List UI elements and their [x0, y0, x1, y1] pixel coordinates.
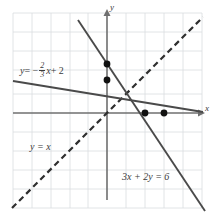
fraction-numerator: 2 — [39, 62, 45, 70]
point-x-intercept-2 — [142, 110, 149, 117]
point-y-intercept-2 — [104, 77, 111, 84]
fraction-denominator: 3 — [39, 70, 45, 79]
equation-label-y-equals-x: y = x — [30, 142, 51, 152]
axes — [13, 16, 198, 200]
line-3x-plus-2y-equals-6 — [78, 20, 205, 211]
eq1-equals: = − — [24, 65, 38, 76]
y-axis-label: y — [110, 3, 114, 12]
point-y-intercept-3 — [104, 61, 111, 68]
fraction-two-thirds: 23 — [39, 62, 45, 79]
graph-figure: y= −23x+ 2 y = x 3x + 2y = 6 x y — [0, 0, 216, 216]
x-axis-label: x — [205, 104, 209, 113]
equation-label-two-thirds: y= −23x+ 2 — [20, 62, 64, 79]
eq1-suffix: + 2 — [51, 65, 64, 76]
coordinate-plane-svg — [0, 0, 216, 216]
equation-label-3x-2y-6: 3x + 2y = 6 — [122, 172, 169, 182]
point-x-intercept-3 — [161, 110, 168, 117]
line-two-thirds — [13, 81, 203, 112]
